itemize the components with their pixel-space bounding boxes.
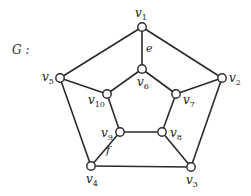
edge-v9-v10 [107,94,120,132]
vertex-v1 [138,23,146,31]
edge-v2-v3 [191,78,222,167]
vertex-v7 [172,90,180,98]
edge-label-f: f [105,144,112,157]
vertices-group [56,23,226,171]
edge-v5-v10 [60,78,107,94]
vertex-v6 [138,65,146,73]
vertex-label-v4: v4 [86,172,98,188]
vertex-label-v2: v2 [229,71,241,87]
vertex-label-v1: v1 [135,6,147,22]
edge-v4-v5 [60,78,91,166]
vertex-v3 [187,163,195,171]
graph-svg: G : ef v1v2v3v4v5v6v7v8v9v10 [0,0,251,196]
vertex-v8 [158,128,166,136]
edge-v3-v4 [91,166,191,167]
vertex-v10 [103,90,111,98]
vertex-label-v8: v8 [170,126,182,142]
vertex-label-v9: v9 [101,126,113,142]
edge-v5-v1 [60,27,142,78]
vertex-v5 [56,74,64,82]
vertex-v4 [87,162,95,170]
vertex-v9 [116,128,124,136]
edge-v2-v7 [176,78,222,94]
vertex-label-v6: v6 [137,75,149,91]
graph-diagram: G : ef v1v2v3v4v5v6v7v8v9v10 [0,0,251,196]
vertex-label-v5: v5 [42,70,54,86]
vertex-v2 [218,74,226,82]
vertex-label-v3: v3 [186,173,198,189]
edges-group [60,27,222,167]
graph-name-label: G : [12,43,29,57]
edge-v1-v2 [142,27,222,78]
vertex-label-v7: v7 [183,93,195,109]
edge-label-e: e [146,42,153,55]
